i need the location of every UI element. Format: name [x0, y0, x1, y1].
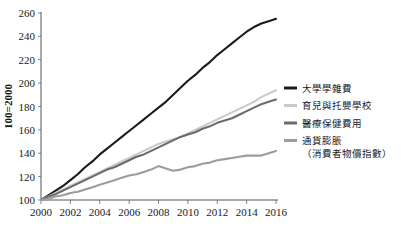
y-tick-label: 180	[19, 101, 36, 113]
series-line-0	[41, 19, 276, 200]
y-axis-title: 100=2000	[2, 84, 14, 129]
chart-canvas: 1001201401601802002202402602000200220042…	[0, 0, 401, 229]
legend-label-1: 育兒與托嬰學校	[302, 100, 372, 111]
y-tick-label: 100	[19, 194, 36, 206]
y-tick-label: 160	[19, 124, 36, 136]
x-tick-label: 2014	[236, 206, 259, 218]
legend-sublabel-3: （消費者物價指數）	[302, 148, 392, 159]
x-tick-label: 2012	[206, 206, 228, 218]
x-tick-label: 2002	[59, 206, 81, 218]
x-tick-label: 2000	[30, 206, 53, 218]
y-tick-label: 240	[19, 30, 36, 42]
legend-label-0: 大學學雜費	[302, 83, 352, 94]
y-tick-label: 260	[19, 7, 36, 19]
y-tick-label: 220	[19, 54, 36, 66]
y-tick-label: 200	[19, 77, 36, 89]
legend-label-2: 醫療保健費用	[302, 118, 362, 129]
line-chart: 1001201401601802002202402602000200220042…	[0, 0, 401, 229]
x-tick-label: 2016	[265, 206, 288, 218]
x-tick-label: 2008	[148, 206, 171, 218]
x-tick-label: 2010	[177, 206, 200, 218]
legend-label-3: 通貨膨脹	[302, 135, 342, 146]
y-tick-label: 120	[19, 171, 36, 183]
x-tick-label: 2006	[118, 206, 141, 218]
x-tick-label: 2004	[89, 206, 112, 218]
y-tick-label: 140	[19, 147, 36, 159]
series-line-2	[41, 99, 276, 200]
